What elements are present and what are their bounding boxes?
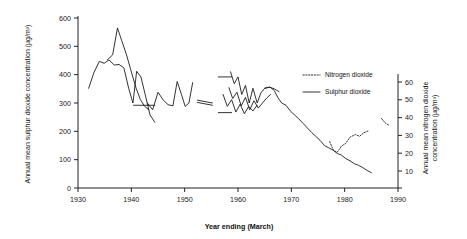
x-tick-label: 1940 xyxy=(123,195,139,204)
y-tick-label: 200 xyxy=(59,127,71,136)
y2-tick-label: 40 xyxy=(405,113,413,122)
y2-tick-label: 60 xyxy=(405,78,413,87)
y2-tick-label: 10 xyxy=(405,167,413,176)
chart-svg: 0100200300400500600 19301940195019601970… xyxy=(0,0,467,239)
x-tick-label: 1970 xyxy=(283,195,299,204)
data-series-line xyxy=(89,60,155,122)
data-series-group xyxy=(89,28,390,173)
y-tick-label: 0 xyxy=(67,184,71,193)
data-series-line xyxy=(330,131,368,152)
data-series-line xyxy=(107,28,149,110)
y-tick-label: 600 xyxy=(59,14,71,23)
chart-legend: Nitrogen dioxideSulphur dioxide xyxy=(303,71,373,96)
legend-label-1: Nitrogen dioxide xyxy=(325,71,373,79)
x-tick-label: 1990 xyxy=(390,195,406,204)
data-series-line xyxy=(381,118,389,125)
chart-figure: 0100200300400500600 19301940195019601970… xyxy=(0,0,467,239)
x-axis-title: Year ending (March) xyxy=(205,222,274,231)
y2-axis-title-line2: concentration (µg/m³) xyxy=(431,95,439,162)
y-tick-label: 300 xyxy=(59,99,71,108)
x-tick-label: 1980 xyxy=(337,195,353,204)
y-tick-label: 400 xyxy=(59,70,71,79)
legend-label-2: Sulphur dioxide xyxy=(325,88,371,96)
y2-tick-label: 30 xyxy=(405,131,413,140)
data-series-line xyxy=(229,88,271,110)
x-tick-label: 1930 xyxy=(70,195,86,204)
data-series-line xyxy=(231,72,280,103)
left-axis: 0100200300400500600 xyxy=(59,14,78,193)
y2-tick-label: 20 xyxy=(405,149,413,158)
x-tick-label: 1950 xyxy=(177,195,193,204)
data-series-line xyxy=(265,87,372,173)
y2-tick-label: 50 xyxy=(405,95,413,104)
y-tick-label: 100 xyxy=(59,155,71,164)
y-axis-title: Annual mean sulphur dioxide concentratio… xyxy=(24,25,32,184)
right-axis: 102030405060 xyxy=(398,74,413,188)
y-tick-label: 500 xyxy=(59,42,71,51)
y2-axis-title-line1: Annual mean nitrogen dioxide xyxy=(422,82,430,175)
bottom-axis: 1930194019501960197019801990 xyxy=(70,188,406,204)
x-tick-label: 1960 xyxy=(230,195,246,204)
